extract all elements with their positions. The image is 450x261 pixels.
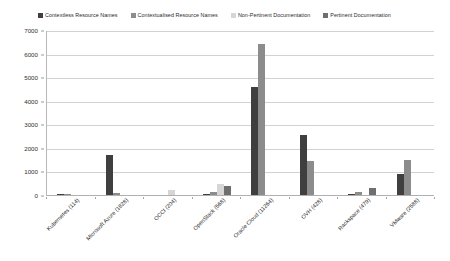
bar[interactable] <box>168 190 175 195</box>
bar-group <box>193 31 242 195</box>
legend-swatch-icon <box>38 13 43 18</box>
bar-group <box>96 31 145 195</box>
y-axis-tick-label: 6000 <box>24 52 38 58</box>
bar-group <box>387 31 436 195</box>
x-axis-tick-label: OpenStack (568) <box>191 197 225 231</box>
legend-item-non-pertinent-documentation[interactable]: Non-Pertinent Documentation <box>231 12 310 19</box>
bar[interactable] <box>106 155 113 195</box>
y-axis-tick-label: 1000 <box>24 169 38 175</box>
x-axis-tick-label: Kubernetes (114) <box>46 197 81 232</box>
bar[interactable] <box>217 184 224 195</box>
x-axis-tick-mark <box>289 197 290 199</box>
y-axis-tick-label: 2000 <box>24 146 38 152</box>
bar-group <box>338 31 387 195</box>
x-axis-tick-mark <box>386 197 387 199</box>
y-axis-tick-mark <box>41 148 44 149</box>
chart-legend: Contextless Resource Names Contextualise… <box>38 9 438 21</box>
bar[interactable] <box>57 194 64 195</box>
legend-label: Pertinent Documentation <box>330 12 390 19</box>
y-axis-tick-mark <box>41 101 44 102</box>
x-axis-tick-mark <box>434 197 435 199</box>
bar[interactable] <box>348 194 355 195</box>
y-axis-tick-mark <box>41 54 44 55</box>
bar[interactable] <box>224 186 231 195</box>
x-axis-tick-mark <box>95 197 96 199</box>
bar-group <box>144 31 193 195</box>
plot-area <box>46 31 434 196</box>
bar[interactable] <box>203 194 210 195</box>
x-axis-tick-label: VMware (2588) <box>388 197 419 228</box>
x-axis-tick-mark <box>337 197 338 199</box>
y-axis-tick-label: 7000 <box>24 28 38 34</box>
y-axis-tick-mark <box>41 31 44 32</box>
y-axis-tick-label: 5000 <box>24 75 38 81</box>
x-axis-tick-label: Microsoft Azure (1828) <box>84 197 128 241</box>
bar[interactable] <box>404 160 411 195</box>
y-axis: 01000200030004000500060007000 <box>0 31 44 196</box>
bar[interactable] <box>251 87 258 195</box>
x-axis-tick-label: OVH (428) <box>300 197 323 220</box>
bar[interactable] <box>64 194 71 195</box>
bar[interactable] <box>210 192 217 195</box>
legend-item-pertinent-documentation[interactable]: Pertinent Documentation <box>323 12 390 19</box>
legend-swatch-icon <box>323 13 328 18</box>
x-axis-tick-mark <box>143 197 144 199</box>
legend-swatch-icon <box>231 13 236 18</box>
bar[interactable] <box>369 188 376 195</box>
x-axis-tick-mark <box>240 197 241 199</box>
bar[interactable] <box>355 192 362 195</box>
x-axis-tick-mark <box>192 197 193 199</box>
bar-chart: Contextless Resource Names Contextualise… <box>0 0 450 261</box>
x-axis-tick-label: OCCI (204) <box>153 197 178 222</box>
legend-item-contextualised-resource-names[interactable]: Contextualised Resource Names <box>131 12 218 19</box>
x-axis-tick-mark <box>46 197 47 199</box>
bar[interactable] <box>258 44 265 195</box>
legend-label: Contextless Resource Names <box>45 12 118 19</box>
bar[interactable] <box>300 135 307 195</box>
y-axis-tick-label: 4000 <box>24 99 38 105</box>
x-axis-tick-label: Oracle Cloud (11264) <box>232 197 274 239</box>
bar-group <box>290 31 339 195</box>
y-axis-tick-label: 0 <box>35 193 38 199</box>
y-axis-tick-mark <box>41 172 44 173</box>
bars-layer <box>47 31 434 195</box>
y-axis-tick-mark <box>41 78 44 79</box>
y-axis-tick-label: 3000 <box>24 122 38 128</box>
bar[interactable] <box>307 161 314 195</box>
x-axis: Kubernetes (114)Microsoft Azure (1828)OC… <box>46 197 434 261</box>
legend-item-contextless-resource-names[interactable]: Contextless Resource Names <box>38 12 118 19</box>
bar[interactable] <box>113 193 120 195</box>
bar-group <box>241 31 290 195</box>
y-axis-tick-mark <box>41 125 44 126</box>
bar-group <box>47 31 96 195</box>
legend-label: Non-Pertinent Documentation <box>238 12 310 19</box>
legend-label: Contextualised Resource Names <box>138 12 218 19</box>
bar[interactable] <box>397 174 404 195</box>
x-axis-tick-label: Rackspace (479) <box>337 197 371 231</box>
legend-swatch-icon <box>131 13 136 18</box>
y-axis-tick-mark <box>41 196 44 197</box>
